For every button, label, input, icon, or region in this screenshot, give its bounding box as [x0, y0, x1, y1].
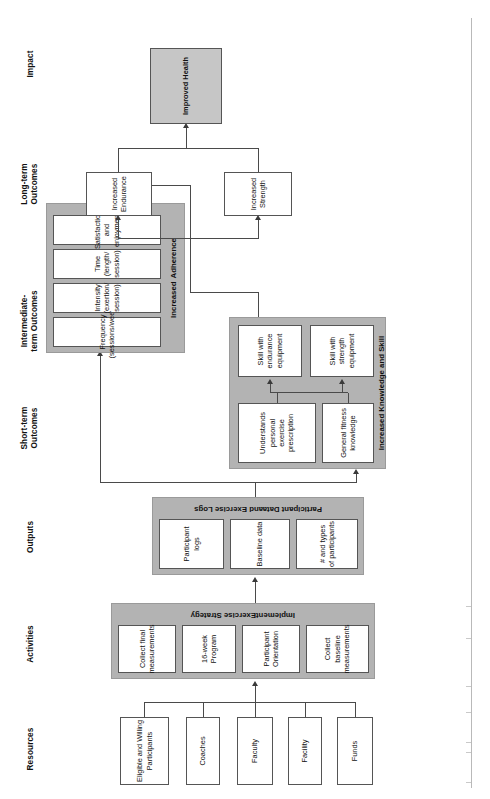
activities-group-label-line1: Implement — [256, 610, 295, 619]
intermediate-node-skill-strength-equipment[interactable]: Skill with strength equipment — [310, 325, 374, 377]
knowledge-fan-to-endurance — [270, 383, 271, 393]
column-header-outputs: Outputs — [26, 497, 36, 577]
resources-bus-spine — [144, 702, 355, 703]
long-term-node-increased-endurance[interactable]: Increased Endurance — [86, 172, 152, 216]
resources-stub-coaches — [203, 702, 204, 717]
resource-node-faculty[interactable]: Faculty — [237, 717, 273, 785]
column-header-intermediate-line2: term Outcomes — [30, 271, 40, 371]
activities-group-label: Implement Exercise Strategy — [118, 607, 368, 623]
activity-node-collect-baseline[interactable]: Collect baseline measurements — [306, 625, 369, 673]
to-increased-strength-drop — [190, 238, 258, 239]
intermediate-node-skill-endurance-equipment[interactable]: Skill with endurance equipment — [238, 325, 302, 377]
column-header-long-term-line2: Outcomes — [30, 139, 40, 229]
column-header-long-term-line1: Long-term — [20, 139, 30, 229]
resources-to-activities-arrow — [252, 681, 258, 686]
knowledge-fan-to-strength — [342, 383, 343, 393]
knowledge-and-skill-group-label: Increased Knowledge and Skill — [376, 317, 388, 469]
column-header-activities: Activities — [26, 604, 36, 684]
activity-node-collect-final[interactable]: Collect final measurements — [118, 625, 176, 673]
activities-group-label-line2: Exercise Strategy — [191, 610, 256, 619]
resources-stub-eligible — [144, 702, 145, 717]
knowledge-fan-arrow-endurance — [267, 379, 273, 384]
outputs-to-knowledge-arrow — [353, 469, 359, 474]
logic-model-page: Resources Activities Outputs Short-term … — [0, 0, 490, 799]
outputs-to-adherence-line — [100, 355, 101, 483]
adherence-group-label-line2: Adherence — [169, 238, 178, 278]
resource-node-coaches[interactable]: Coaches — [186, 717, 220, 785]
intermediate-merge-bar — [190, 185, 191, 293]
outputs-fanout-stub — [255, 483, 256, 497]
strength-out-stub — [258, 148, 259, 172]
adherence-node-time[interactable]: Time (length/ session) — [53, 249, 161, 279]
knowledge-fan-spine — [270, 392, 348, 393]
to-increased-strength-line — [258, 219, 259, 239]
column-header-impact: Impact — [26, 29, 36, 99]
column-header-resources: Resources — [26, 709, 36, 789]
column-header-short-term-line2: Outcomes — [30, 383, 40, 473]
resources-stub-facility — [305, 702, 306, 717]
diagram-canvas: Resources Activities Outputs Short-term … — [0, 0, 490, 799]
outputs-fanout-spine — [100, 482, 356, 483]
resources-to-activities-line — [255, 685, 256, 703]
long-term-node-increased-strength[interactable]: Increased Strength — [224, 172, 292, 216]
column-header-short-term: Short-term Outcomes — [20, 383, 41, 473]
outputs-group-label-line1: Participant Data — [263, 504, 322, 513]
column-header-intermediate-line1: Intermediate- — [20, 271, 30, 371]
adherence-group-label: Increased Adherence — [166, 203, 182, 353]
adherence-node-satisfaction[interactable]: Satisfaction and enjoyment — [53, 215, 161, 245]
intermediate-merge-spine-left — [190, 292, 259, 293]
knowledge-fan-arrow-strength — [339, 379, 345, 384]
column-header-short-term-line1: Short-term — [20, 383, 30, 473]
impact-merge-line — [186, 127, 187, 149]
short-term-node-general-fitness-knowledge[interactable]: General fitness knowledge — [322, 403, 374, 463]
resources-stub-funds — [355, 702, 356, 717]
adherence-node-frequency[interactable]: Frequency (sessions/week) — [53, 317, 161, 347]
knowledge-out-stub — [258, 293, 259, 317]
knowledge-fan-stub-a — [348, 393, 349, 403]
impact-node-improved-health[interactable]: Improved Health — [150, 48, 222, 124]
endurance-out-stub — [118, 148, 119, 172]
output-node-num-and-types[interactable]: # and types of participants — [296, 519, 358, 569]
column-header-intermediate: Intermediate- term Outcomes — [20, 271, 41, 371]
knowledge-fan-stub-b — [277, 393, 278, 403]
short-term-node-understands-prescription[interactable]: Understands personal exercise prescripti… — [238, 403, 316, 463]
output-node-baseline-data[interactable]: Baseline data — [230, 519, 290, 569]
adherence-group-label-line1: Increased — [169, 281, 178, 317]
column-header-long-term: Long-term Outcomes — [20, 139, 41, 229]
outputs-group-label: Participant Data and Exercise Logs — [158, 501, 358, 517]
outputs-group-label-line2: and Exercise Logs — [194, 504, 263, 513]
activity-node-participant-orientation[interactable]: Participant Orientation — [242, 625, 300, 673]
activities-to-outputs-line — [255, 581, 256, 603]
outputs-to-knowledge-line — [356, 473, 357, 483]
resources-stub-faculty — [255, 702, 256, 717]
resource-node-funds[interactable]: Funds — [337, 717, 373, 785]
output-node-participant-logs[interactable]: Participant logs — [159, 519, 224, 569]
activity-node-16-week-program[interactable]: 16-week Program — [182, 625, 236, 673]
to-increased-endurance-rise — [118, 238, 190, 239]
resource-node-facility[interactable]: Facility — [288, 717, 322, 785]
activities-to-outputs-arrow — [252, 577, 258, 582]
adherence-node-intensity[interactable]: Intensity (exertion/ session) — [53, 283, 161, 313]
resource-node-eligible-participants[interactable]: Eligible and Willing Participants — [120, 717, 169, 785]
to-increased-endurance-line — [118, 219, 119, 239]
impact-merge-spine — [118, 148, 259, 149]
